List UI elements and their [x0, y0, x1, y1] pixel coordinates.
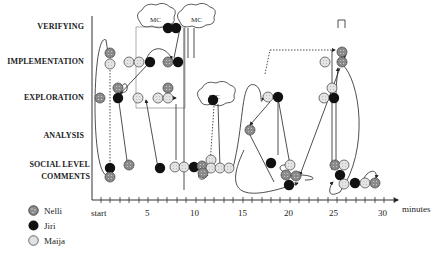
- mc-label: MC: [191, 16, 202, 24]
- phase-timeline-diagram: MC MC MC: [0, 0, 445, 261]
- mc-label: MC: [150, 16, 161, 24]
- mc-cloud-2: MC: [177, 3, 215, 27]
- axes: [92, 16, 398, 203]
